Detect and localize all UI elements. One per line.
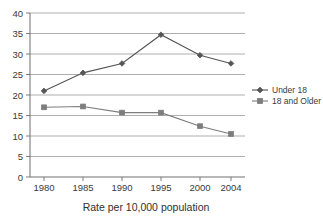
legend-label-18-and-older: 18 and Older (272, 96, 321, 106)
y-tick-label: 15 (12, 110, 23, 121)
series-line-under-18 (44, 35, 231, 91)
x-tick-label: 2004 (220, 182, 241, 193)
x-axis-labels: 1980 1985 1990 1995 2000 2004 (33, 182, 241, 193)
series-line-18-and-older (44, 106, 231, 133)
square-marker-icon (258, 99, 263, 104)
x-tick-label: 1990 (111, 182, 132, 193)
y-tick-label: 35 (12, 28, 23, 39)
y-axis-labels: 40 35 30 25 20 15 10 5 0 (12, 8, 23, 183)
x-tick-label: 2000 (189, 182, 210, 193)
line-chart: 40 35 30 25 20 15 10 5 0 1980 1985 1990 … (0, 0, 323, 217)
series-layer (41, 32, 234, 136)
chart-caption: Rate per 10,000 population (83, 201, 210, 213)
legend-item-18-and-older[interactable]: 18 and Older (252, 96, 321, 106)
y-tick-marks (26, 13, 30, 177)
legend-item-under-18[interactable]: Under 18 (252, 85, 307, 95)
legend-label-under-18: Under 18 (272, 85, 307, 95)
data-point (81, 104, 86, 109)
x-tick-label: 1985 (72, 182, 93, 193)
y-tick-label: 25 (12, 69, 23, 80)
data-point (159, 110, 164, 115)
y-tick-label: 30 (12, 49, 23, 60)
data-point (198, 124, 203, 129)
x-tick-label: 1995 (150, 182, 171, 193)
y-tick-label: 10 (12, 131, 23, 142)
y-tick-label: 5 (18, 151, 23, 162)
y-tick-label: 40 (12, 8, 23, 19)
y-tick-label: 20 (12, 90, 23, 101)
data-point (197, 52, 203, 58)
x-tick-marks (44, 177, 231, 181)
legend: Under 18 18 and Older (252, 85, 321, 106)
y-tick-label: 0 (18, 172, 23, 183)
diamond-marker-icon (257, 87, 263, 93)
gridlines (30, 13, 245, 157)
x-tick-label: 1980 (33, 182, 54, 193)
data-point (229, 132, 234, 137)
data-point (120, 110, 125, 115)
data-point (42, 105, 47, 110)
data-point (228, 61, 234, 67)
data-point (41, 88, 47, 94)
chart-container: 40 35 30 25 20 15 10 5 0 1980 1985 1990 … (0, 0, 323, 217)
